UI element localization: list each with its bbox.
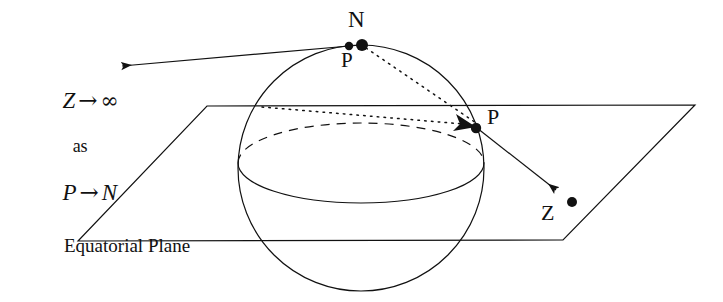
arrow-p-to-z xyxy=(477,128,556,190)
point-z-dot xyxy=(567,197,577,207)
label-equatorial-plane-caption: Equatorial Plane xyxy=(64,236,190,255)
equator-back-dashed xyxy=(238,123,484,163)
limit-arrow-2: → xyxy=(77,179,102,205)
equator-front-solid xyxy=(238,163,484,203)
arrow-toward-infinity xyxy=(122,45,361,66)
stereographic-projection-figure: N P P Z Equatorial Plane Z→∞ as P→N xyxy=(0,0,723,302)
limit-connector-as: as xyxy=(28,137,158,156)
limit-statement-block: Z→∞ as P→N xyxy=(28,64,158,230)
limit-line-z-to-infinity: Z→∞ xyxy=(28,64,158,137)
sphere-outline xyxy=(238,45,484,291)
point-p-right-dot xyxy=(471,123,481,133)
label-north-pole: N xyxy=(348,8,365,31)
dotted-ray-north-to-p xyxy=(366,48,479,125)
point-north-pole-dot xyxy=(356,39,368,51)
label-point-p-top: P xyxy=(341,50,353,71)
limit-arrow-1: → xyxy=(75,87,100,113)
limit-var-p: P xyxy=(63,180,77,205)
limit-var-z: Z xyxy=(63,88,76,113)
label-projected-point-z: Z xyxy=(541,202,554,224)
limit-target-n: N xyxy=(102,180,117,205)
label-point-p-right: P xyxy=(487,106,499,128)
equatorial-plane-shape xyxy=(78,105,695,241)
dotted-horizontal-construction-line xyxy=(262,107,463,124)
infinity-symbol: ∞ xyxy=(101,88,119,113)
limit-line-p-to-n: P→N xyxy=(28,156,158,229)
